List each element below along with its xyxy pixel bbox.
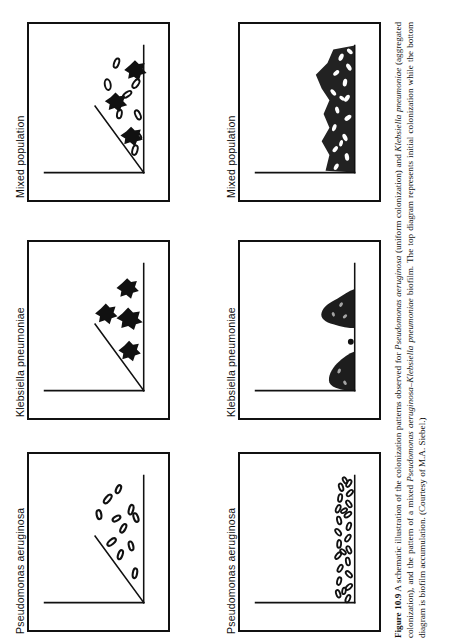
panel-accumulation-klebsiella bbox=[238, 240, 381, 420]
biofilm-mass bbox=[316, 46, 355, 173]
rod-cells-group bbox=[96, 484, 140, 578]
row-label-mixed-population: Mixed population bbox=[14, 115, 26, 198]
panel-initial-pseudomonas-drawing bbox=[29, 454, 168, 630]
cells-group bbox=[104, 58, 147, 156]
panel-initial-mixed bbox=[27, 22, 170, 202]
panel-accumulation-pseudomonas bbox=[238, 452, 381, 632]
aggregates-group bbox=[95, 278, 143, 361]
row-label-klebsiella-pneumoniae: Klebsiella pneumoniae bbox=[14, 307, 26, 417]
figure-page: Mixed population Klebsiella pneumoniae P… bbox=[0, 0, 469, 642]
panel-accumulation-mixed-drawing bbox=[240, 24, 379, 200]
panel-initial-pseudomonas bbox=[27, 452, 170, 632]
row-label-pseudomonas-aeruginosa: Pseudomonas aeruginosa bbox=[14, 508, 26, 634]
panel-initial-klebsiella-drawing bbox=[29, 242, 168, 418]
panel-accumulation-mixed bbox=[238, 22, 381, 202]
biofilm-mounds bbox=[321, 289, 354, 391]
caption-segment: Pseudomonas aeruginosa bbox=[393, 256, 403, 350]
row-label-klebsiella-pneumoniae-2: Klebsiella pneumoniae bbox=[225, 307, 237, 417]
row-label-pseudomonas-aeruginosa-2: Pseudomonas aeruginosa bbox=[225, 508, 237, 634]
caption-segment: Figure 10.9 bbox=[393, 594, 403, 638]
figure-caption-block: Figure 10.9 A schematic illustration of … bbox=[392, 22, 466, 638]
rod-layer bbox=[334, 477, 354, 603]
caption-segment: (uniform colonization) and bbox=[393, 152, 403, 256]
panel-initial-klebsiella bbox=[27, 240, 170, 420]
caption-segment: A schematic illustration of the coloniza… bbox=[393, 350, 403, 594]
row-label-mixed-population-2: Mixed population bbox=[225, 115, 237, 198]
caption-segment: Klebsiella pneumoniae bbox=[393, 68, 403, 152]
panel-accumulation-pseudomonas-drawing bbox=[240, 454, 379, 630]
panel-accumulation-klebsiella-drawing bbox=[240, 242, 379, 418]
figure-caption-text: Figure 10.9 A schematic illustration of … bbox=[392, 22, 428, 638]
caption-segment: Pseudomonas aeruginosa–Klebsiella pneumo… bbox=[405, 298, 415, 482]
panel-initial-mixed-drawing bbox=[29, 24, 168, 200]
